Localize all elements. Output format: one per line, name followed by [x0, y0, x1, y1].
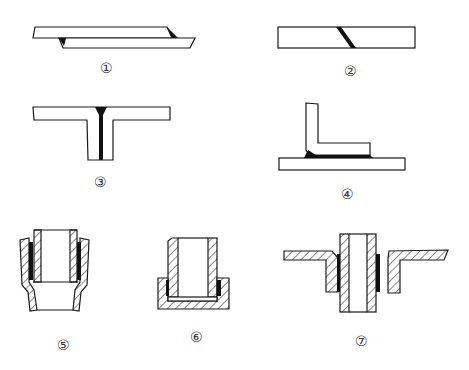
label-4: ④: [341, 186, 354, 202]
figure-4-angle-joint: ④: [279, 103, 405, 202]
figure-3-t-joint: ③: [33, 107, 170, 190]
label-3: ③: [94, 174, 107, 190]
label-1: ①: [100, 60, 113, 76]
label-7: ⑦: [355, 333, 368, 349]
figure-7-flange-joint: ⑦: [284, 234, 448, 349]
label-5: ⑤: [57, 337, 70, 353]
figure-1-lap-joint: ①: [33, 27, 195, 76]
figure-2-butt-joint: ②: [278, 27, 415, 79]
weld-joint-diagram: ① ② ③ ④ ⑤: [0, 0, 469, 370]
label-6: ⑥: [190, 329, 203, 345]
figure-6-cup-joint: ⑥: [158, 238, 229, 345]
label-2: ②: [344, 63, 357, 79]
figure-5-socket-joint: ⑤: [20, 230, 89, 353]
